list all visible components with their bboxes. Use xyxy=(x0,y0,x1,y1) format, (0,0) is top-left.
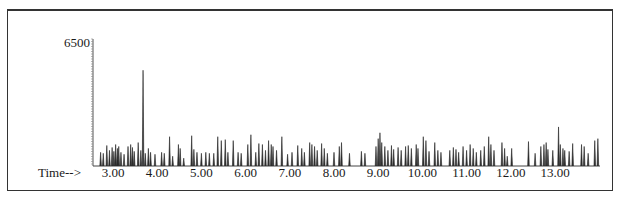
peak xyxy=(314,146,316,166)
peak xyxy=(339,146,341,166)
peak xyxy=(341,143,343,166)
peak xyxy=(179,148,181,166)
x-tick-label: 10.00 xyxy=(408,165,437,181)
peak xyxy=(490,145,492,166)
peak xyxy=(255,152,257,166)
peak xyxy=(564,150,566,166)
peak xyxy=(265,150,267,166)
peak xyxy=(493,150,495,166)
peak xyxy=(193,149,195,166)
peak xyxy=(391,145,393,166)
peak xyxy=(196,152,198,166)
peak xyxy=(466,150,468,166)
peak xyxy=(316,150,318,166)
peak xyxy=(270,145,272,166)
peak xyxy=(148,148,150,166)
peak xyxy=(232,141,234,166)
peak xyxy=(333,152,335,166)
peak xyxy=(504,148,506,166)
peak xyxy=(434,143,436,166)
peak xyxy=(560,145,562,166)
x-tick-label: 6.00 xyxy=(234,165,257,181)
peak xyxy=(440,152,442,166)
x-tick-label: 8.00 xyxy=(323,165,346,181)
peak xyxy=(449,150,451,166)
x-tick-label: 11.00 xyxy=(452,165,481,181)
peak xyxy=(552,150,554,166)
peak xyxy=(130,145,132,166)
peak xyxy=(455,149,457,166)
peak xyxy=(213,153,215,166)
peak xyxy=(217,137,219,166)
peak xyxy=(323,148,325,166)
peak xyxy=(543,145,545,166)
peak xyxy=(268,141,270,166)
peak xyxy=(113,151,115,166)
peak xyxy=(562,148,564,166)
peak xyxy=(220,141,222,166)
peak xyxy=(384,146,386,166)
peak xyxy=(191,136,193,166)
peak xyxy=(407,145,409,166)
peak xyxy=(250,135,252,166)
chromatogram-plot xyxy=(0,0,620,198)
peak xyxy=(572,144,574,166)
peak xyxy=(597,139,599,166)
peak xyxy=(581,145,583,166)
peak xyxy=(540,146,542,166)
peak xyxy=(227,152,229,166)
peak xyxy=(304,152,306,166)
peak xyxy=(109,150,111,166)
peak xyxy=(276,150,278,166)
x-tick-label: 4.00 xyxy=(146,165,169,181)
peak xyxy=(100,152,102,166)
peak xyxy=(258,144,260,166)
x-tick-label: 5.00 xyxy=(190,165,213,181)
peak xyxy=(387,150,389,166)
peak xyxy=(417,148,419,166)
x-tick-label: 13.00 xyxy=(540,165,569,181)
peak xyxy=(547,149,549,166)
peak xyxy=(291,152,293,166)
peak xyxy=(118,146,120,166)
peak xyxy=(528,142,530,166)
peak xyxy=(205,152,207,166)
peak xyxy=(247,145,249,166)
peak xyxy=(534,153,536,166)
peak xyxy=(120,152,122,166)
peak xyxy=(262,145,264,166)
peak xyxy=(133,151,135,166)
peak xyxy=(169,137,171,166)
peak xyxy=(161,152,163,166)
peak xyxy=(115,145,117,166)
peak xyxy=(132,147,134,166)
peak xyxy=(587,153,589,166)
peak xyxy=(453,147,455,166)
peak xyxy=(364,153,366,166)
peak xyxy=(237,152,239,166)
peak xyxy=(476,152,478,166)
peak xyxy=(411,148,413,166)
peak xyxy=(375,146,377,166)
peak xyxy=(297,145,299,166)
peak xyxy=(183,158,185,166)
peak xyxy=(381,143,383,166)
peak xyxy=(415,145,417,166)
peak xyxy=(137,143,139,166)
peak xyxy=(309,143,311,166)
peak xyxy=(501,143,503,166)
peak xyxy=(377,139,379,166)
peak xyxy=(172,156,174,166)
peak xyxy=(106,145,108,166)
peak xyxy=(140,150,142,166)
peak xyxy=(361,151,363,166)
peak xyxy=(178,145,180,166)
peak xyxy=(397,147,399,166)
peak xyxy=(458,152,460,166)
peak xyxy=(583,146,585,166)
peak xyxy=(272,146,274,166)
peak xyxy=(349,153,351,166)
peak xyxy=(379,133,381,166)
peak xyxy=(437,150,439,166)
x-tick-label: 3.00 xyxy=(102,165,125,181)
